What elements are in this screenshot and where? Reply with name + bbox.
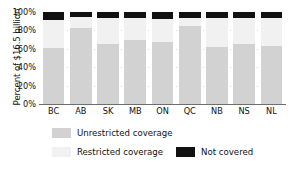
grid-mark xyxy=(230,86,231,87)
y-tick-label: 0% xyxy=(0,99,36,109)
segment-restricted-coverage xyxy=(179,18,201,25)
segment-unrestricted-coverage xyxy=(206,47,228,104)
grid-mark xyxy=(203,30,204,31)
grid-mark xyxy=(148,30,149,31)
segment-restricted-coverage xyxy=(97,18,119,45)
segment-not-covered xyxy=(206,12,228,18)
grid-mark xyxy=(176,49,177,50)
grid-mark xyxy=(257,30,258,31)
x-tick-label-ab: AB xyxy=(67,106,94,116)
grid-mark xyxy=(121,30,122,31)
x-tick-label-nb: NB xyxy=(203,106,230,116)
grid-mark xyxy=(176,67,177,68)
segment-unrestricted-coverage xyxy=(43,48,65,104)
legend-row-1: Unrestricted coverage xyxy=(0,128,292,146)
segment-not-covered xyxy=(43,12,65,20)
grid-mark xyxy=(230,30,231,31)
bar-ab[interactable] xyxy=(70,12,92,104)
segment-restricted-coverage xyxy=(261,18,283,47)
grid-mark xyxy=(203,86,204,87)
segment-unrestricted-coverage xyxy=(70,28,92,104)
grid-mark xyxy=(148,49,149,50)
grid-mark xyxy=(176,86,177,87)
unrestricted-swatch-icon xyxy=(52,128,71,138)
grid-mark xyxy=(67,49,68,50)
segment-unrestricted-coverage xyxy=(97,44,119,104)
segment-restricted-coverage xyxy=(206,18,228,47)
legend-item-unrestricted-coverage[interactable]: Unrestricted coverage xyxy=(52,128,173,138)
y-tick-label: 60% xyxy=(0,44,36,54)
segment-restricted-coverage xyxy=(152,19,174,42)
y-tick-label: 20% xyxy=(0,81,36,91)
bar-sk[interactable] xyxy=(97,12,119,104)
x-tick-label-sk: SK xyxy=(94,106,121,116)
x-tick-label-ns: NS xyxy=(231,106,258,116)
grid-mark xyxy=(203,67,204,68)
grid-mark xyxy=(257,86,258,87)
grid-mark xyxy=(67,67,68,68)
segment-unrestricted-coverage xyxy=(124,40,146,104)
legend-label-restricted: Restricted coverage xyxy=(77,147,163,157)
segment-restricted-coverage xyxy=(70,17,92,28)
x-tick-label-nl: NL xyxy=(258,106,285,116)
legend-item-not-covered[interactable]: Not covered xyxy=(176,147,253,157)
segment-restricted-coverage xyxy=(233,18,255,45)
grid-mark xyxy=(94,67,95,68)
grid-mark xyxy=(94,49,95,50)
grid-mark xyxy=(176,30,177,31)
grid-mark xyxy=(257,67,258,68)
segment-unrestricted-coverage xyxy=(261,46,283,104)
bar-mb[interactable] xyxy=(124,12,146,104)
segment-restricted-coverage xyxy=(124,18,146,40)
grid-mark xyxy=(257,49,258,50)
x-tick-label-mb: MB xyxy=(122,106,149,116)
grid-mark xyxy=(148,67,149,68)
segment-unrestricted-coverage xyxy=(233,44,255,104)
y-tick-label: 80% xyxy=(0,25,36,35)
bar-ns[interactable] xyxy=(233,12,255,104)
stacked-bar-chart: Percent of $16.5 billion 0%20%40%60%80%1… xyxy=(0,0,292,174)
bar-on[interactable] xyxy=(152,12,174,104)
grid-mark xyxy=(94,30,95,31)
not-covered-swatch-icon xyxy=(176,147,195,157)
bar-qc[interactable] xyxy=(179,12,201,104)
grid-mark xyxy=(230,67,231,68)
legend-label-not-covered: Not covered xyxy=(201,147,253,157)
segment-not-covered xyxy=(124,12,146,18)
segment-not-covered xyxy=(233,12,255,18)
grid-mark xyxy=(121,67,122,68)
x-axis-line xyxy=(39,104,286,105)
segment-not-covered xyxy=(97,12,119,18)
segment-restricted-coverage xyxy=(43,20,65,48)
grid-mark xyxy=(121,49,122,50)
plot-area xyxy=(40,12,285,104)
segment-not-covered xyxy=(70,12,92,17)
segment-not-covered xyxy=(152,12,174,19)
bar-bc[interactable] xyxy=(43,12,65,104)
legend-label-unrestricted: Unrestricted coverage xyxy=(77,128,173,138)
bar-nl[interactable] xyxy=(261,12,283,104)
grid-mark xyxy=(94,86,95,87)
grid-mark xyxy=(67,30,68,31)
legend-item-restricted-coverage[interactable]: Restricted coverage xyxy=(52,147,163,157)
segment-not-covered xyxy=(261,12,283,18)
grid-mark xyxy=(148,86,149,87)
y-tick-label: 100% xyxy=(0,7,36,17)
x-tick-label-bc: BC xyxy=(40,106,67,116)
restricted-swatch-icon xyxy=(52,147,71,157)
grid-mark xyxy=(67,86,68,87)
grid-mark xyxy=(230,49,231,50)
segment-not-covered xyxy=(179,12,201,18)
legend-row-2: Restricted coverage Not covered xyxy=(0,147,292,165)
x-tick-label-qc: QC xyxy=(176,106,203,116)
chart-legend: Unrestricted coverage Restricted coverag… xyxy=(0,128,292,174)
grid-mark xyxy=(121,86,122,87)
x-tick-label-on: ON xyxy=(149,106,176,116)
y-tick-label: 40% xyxy=(0,62,36,72)
grid-mark xyxy=(203,49,204,50)
segment-unrestricted-coverage xyxy=(152,42,174,104)
segment-unrestricted-coverage xyxy=(179,26,201,104)
bar-nb[interactable] xyxy=(206,12,228,104)
